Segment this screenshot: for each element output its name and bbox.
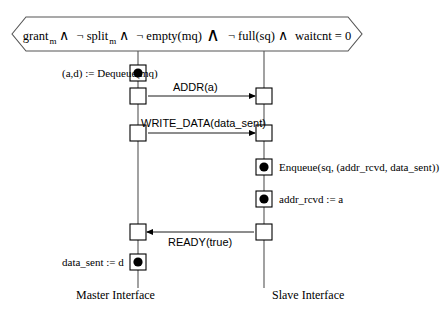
lifeline-label-master: Master Interface	[76, 289, 155, 301]
message-arrow-addr	[148, 93, 256, 99]
guard-term-split: ¬ split	[76, 29, 108, 43]
action-label-addr-assign: addr_rcvd := a	[279, 194, 343, 205]
message-arrow-ready	[146, 229, 254, 235]
message-arrow-write-data	[148, 130, 256, 136]
guard-term-empty: ¬ empty(mq)	[136, 29, 202, 43]
guard-op-1: ∧	[56, 28, 72, 43]
guard-term-grant: grant	[23, 29, 49, 43]
action-label-dequeue: (a,d) := Dequeue(mq)	[62, 68, 158, 79]
lifeline-label-slave: Slave Interface	[272, 289, 344, 301]
guard-term-waitcnt: waitcnt = 0	[295, 29, 351, 43]
event-marker-enqueue	[256, 159, 272, 175]
event-marker-ready-receive	[130, 224, 146, 240]
message-label-write-data: WRITE_DATA(data_sent)	[141, 118, 266, 129]
event-marker-addr-receive	[256, 88, 272, 104]
event-marker-addr-send	[130, 88, 146, 104]
message-label-addr: ADDR(a)	[173, 82, 218, 93]
guard-term-full: ¬ full(sq)	[228, 29, 275, 43]
guard-op-2: ∧	[116, 28, 132, 43]
message-label-ready: READY(true)	[168, 237, 232, 248]
action-label-enqueue: Enqueue(sq, (addr_rcvd, data_sent))	[279, 162, 439, 173]
guard-op-big: ∧	[202, 24, 224, 45]
event-marker-data-assign	[130, 254, 146, 270]
guard-condition: grantm∧¬ splitm∧¬ empty(mq)∧¬ full(sq)∧w…	[14, 22, 360, 46]
guard-op-3: ∧	[275, 28, 291, 43]
guard-sub-m-2: m	[108, 36, 116, 46]
event-marker-addr-assign	[256, 191, 272, 207]
action-label-data-assign: data_sent := d	[62, 257, 124, 268]
event-marker-ready-send	[256, 224, 272, 240]
